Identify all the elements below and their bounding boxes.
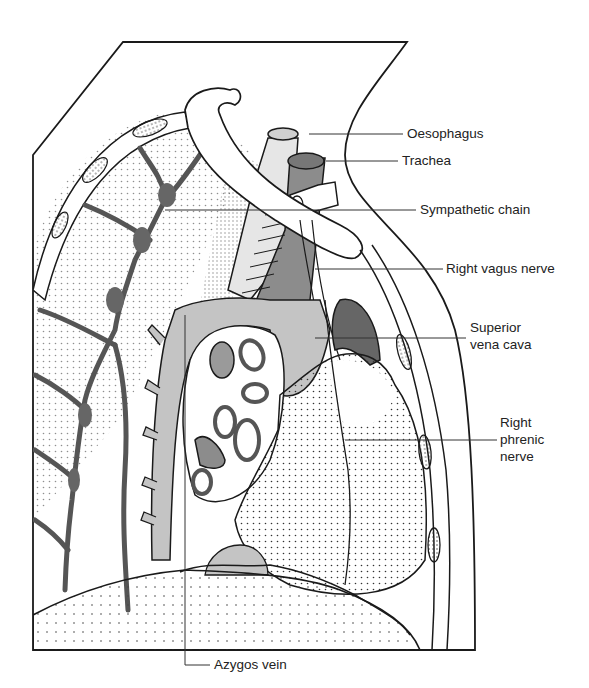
label-trachea: Trachea: [402, 152, 451, 169]
label-azygos-vein: Azygos vein: [214, 656, 287, 673]
label-superior-vena-cava: Superior vena cava: [470, 319, 532, 353]
label-sympathetic-chain: Sympathetic chain: [420, 201, 530, 218]
label-oesophagus: Oesophagus: [407, 125, 484, 142]
label-right-vagus-nerve: Right vagus nerve: [446, 260, 555, 277]
label-right-phrenic-nerve: Right phrenic nerve: [500, 414, 544, 465]
mediastinum-diagram: Oesophagus Trachea Sympathetic chain Rig…: [0, 0, 589, 688]
